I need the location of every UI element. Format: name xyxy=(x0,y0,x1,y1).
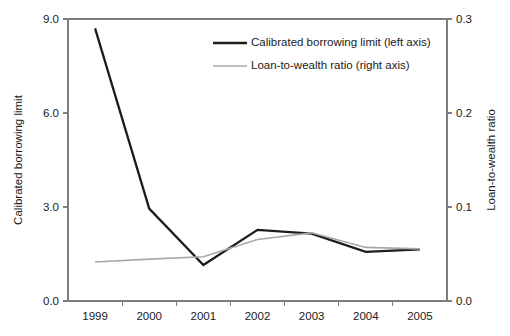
x-axis-tick-label: 2003 xyxy=(299,310,325,322)
left-axis-title: Calibrated borrowing limit xyxy=(12,94,24,225)
left-axis-tick-label: 0.0 xyxy=(43,295,59,307)
x-axis-tick-label: 2001 xyxy=(191,310,217,322)
left-axis-tick-label: 9.0 xyxy=(43,13,59,25)
right-axis-tick-label: 0.1 xyxy=(456,201,472,213)
chart-figure: 0.03.06.09.0Calibrated borrowing limit0.… xyxy=(0,0,510,336)
right-axis-tick-label: 0.2 xyxy=(456,107,472,119)
left-axis-tick-label: 6.0 xyxy=(43,107,59,119)
x-axis-tick-label: 2004 xyxy=(353,310,379,322)
right-axis-tick-label: 0.0 xyxy=(456,295,472,307)
chart-legend: Calibrated borrowing limit (left axis)Lo… xyxy=(213,36,431,71)
x-axis-tick-label: 2005 xyxy=(407,310,433,322)
left-axis-tick-label: 3.0 xyxy=(43,201,59,213)
legend-label: Loan-to-wealth ratio (right axis) xyxy=(251,59,410,71)
right-axis-tick-label: 0.3 xyxy=(456,13,472,25)
dual-axis-line-chart: 0.03.06.09.0Calibrated borrowing limit0.… xyxy=(0,0,510,336)
x-axis-tick-label: 1999 xyxy=(82,310,108,322)
legend-label: Calibrated borrowing limit (left axis) xyxy=(251,36,431,48)
x-axis-tick-label: 2002 xyxy=(245,310,271,322)
right-axis-title: Loan-to-wealth ratio xyxy=(485,109,497,211)
x-axis-tick-label: 2000 xyxy=(136,310,162,322)
series-line-loan-to-wealth-ratio xyxy=(95,233,420,262)
